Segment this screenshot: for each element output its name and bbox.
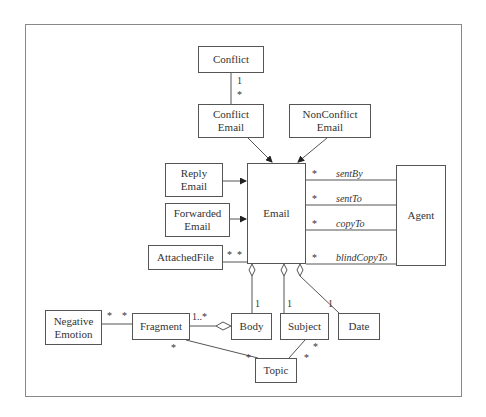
class-body: Body [231,313,272,340]
class-fragment: Fragment [132,313,190,340]
class-label: Topic [264,364,289,377]
class-email: Email [247,163,306,264]
class-label: Conflict [213,53,249,66]
class-label: Reply [181,167,207,180]
class-label: Email [263,207,289,220]
subject-topic-association [289,340,305,358]
fragment-aggregation-diamond [216,322,231,330]
mult-conflict-many: * [237,89,242,100]
class-date: Date [338,313,380,340]
class-label: Forwarded [174,207,222,220]
class-label: Subject [288,320,321,333]
class-nonconflict-email: NonConflictEmail [289,104,371,138]
class-label: Emotion [55,328,93,341]
role-sentby: sentBy [336,168,363,179]
mult-blindcopyto: * [312,252,317,263]
class-forwarded-email: ForwardedEmail [165,203,230,237]
class-label: Email [181,180,207,193]
class-attached-file: AttachedFile [148,245,223,270]
mult-body-one: 1 [255,298,260,309]
mult-topic-subject: * [304,352,309,363]
subject-aggregation-diamond [281,264,287,276]
class-label: Agent [408,209,435,222]
body-aggregation-diamond [249,264,255,276]
class-label: Negative [54,315,94,328]
mult-fragment-body: 1..* [192,311,207,322]
mult-sentby: * [312,168,317,179]
mult-date-one: 1 [328,298,333,309]
class-conflict: Conflict [198,46,264,73]
mult-topic-fragment: * [246,352,251,363]
role-blindcopyto: blindCopyTo [336,252,387,263]
mult-conflict-one: 1 [237,75,242,86]
class-label: NonConflict [303,108,358,121]
class-label: AttachedFile [157,251,214,264]
mult-attached-right: * [237,249,242,260]
class-agent: Agent [396,165,446,266]
role-sentto: sentTo [336,193,362,204]
nonconflict-email-generalization [298,138,327,162]
class-negative-emotion: NegativeEmotion [45,310,102,345]
class-label: Email [184,220,210,233]
class-label: Body [240,320,264,333]
conflict-email-generalization [248,138,272,162]
mult-neg-right: * [122,310,127,321]
mult-subject-topic: * [313,341,318,352]
class-label: Fragment [140,320,182,333]
mult-copyto: * [312,218,317,229]
date-aggregation-diamond [297,264,303,276]
class-label: Email [317,121,343,134]
class-label: Email [218,121,244,134]
mult-sentto: * [312,193,317,204]
mult-fragment-topic: * [171,342,176,353]
class-label: Conflict [213,108,249,121]
class-subject: Subject [280,313,329,340]
class-reply-email: ReplyEmail [165,163,223,197]
role-copyto: copyTo [336,218,365,229]
mult-subject-one: 1 [287,298,292,309]
mult-attached-left: * [227,249,232,260]
class-conflict-email: ConflictEmail [198,104,264,138]
mult-neg-left: * [107,310,112,321]
class-topic: Topic [255,358,297,383]
class-label: Date [349,320,370,333]
